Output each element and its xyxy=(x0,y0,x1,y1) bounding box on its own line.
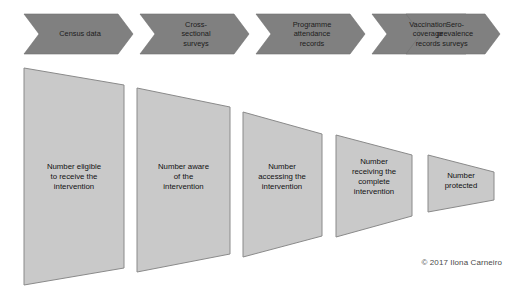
cascade-stage-label-3: Number accessing the intervention xyxy=(244,156,320,198)
data-source-label-3: Programme attendance records xyxy=(264,14,360,54)
funnel-diagram: Census data Cross- sectional surveys Pro… xyxy=(0,0,518,300)
data-source-label-5: Sero- prevalence surveys xyxy=(414,14,496,54)
data-source-label-2: Cross- sectional surveys xyxy=(148,14,244,54)
data-source-label-1: Census data xyxy=(32,14,128,54)
copyright-note: © 2017 Ilona Carneiro xyxy=(422,258,503,267)
cascade-stage-label-2: Number aware of the intervention xyxy=(139,156,228,198)
cascade-stage-label-5: Number protected xyxy=(430,167,492,195)
cascade-stage-label-4: Number receiving the complete interventi… xyxy=(338,151,410,203)
cascade-stage-label-1: Number eligible to receive the intervent… xyxy=(26,156,122,198)
